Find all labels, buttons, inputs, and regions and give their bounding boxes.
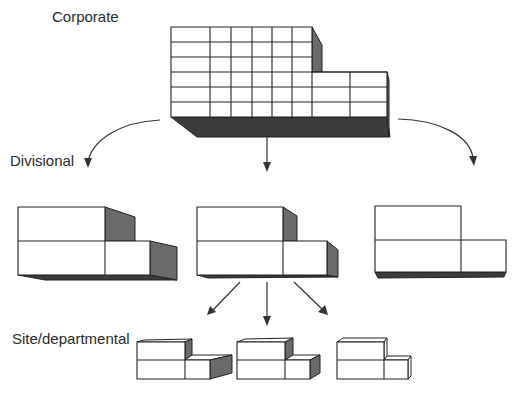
arrow-corporate-to-divisional-2 [263,137,271,172]
corporate-block [171,27,390,137]
corporate-block-base [171,117,390,137]
arrow-corporate-to-divisional-3 [398,119,477,166]
divisional-block-1-side-lower [150,241,177,280]
divisional-block-2 [197,207,338,278]
arrow-divisional-to-site-3 [294,282,328,315]
arrow-divisional-to-site-2 [263,282,271,326]
site-block-3 [337,338,411,379]
level-label-site: Site/departmental [12,330,130,347]
divisional-block-3-front [375,206,506,272]
arrow-corporate-to-divisional-1 [84,120,160,168]
divisional-block-3 [375,206,506,278]
site-block-1 [137,339,232,379]
level-label-divisional: Divisional [10,152,74,169]
divisional-block-3-base [375,272,506,278]
divisional-block-1-side-upper [105,207,135,241]
site-block-2 [237,338,320,379]
site-block-2-top [237,338,293,342]
divisional-block-2-side-upper [283,207,297,241]
divisional-block-2-side-lower [327,241,338,277]
hierarchy-diagram: Corporate Divisional Site/departmental [0,0,517,396]
site-block-3-top-lower [384,356,411,360]
corporate-block-side-upper [312,27,322,72]
site-block-3-top [337,338,387,342]
level-label-corporate: Corporate [52,8,119,25]
divisional-block-1 [18,207,177,280]
arrow-divisional-to-site-1 [207,282,240,315]
